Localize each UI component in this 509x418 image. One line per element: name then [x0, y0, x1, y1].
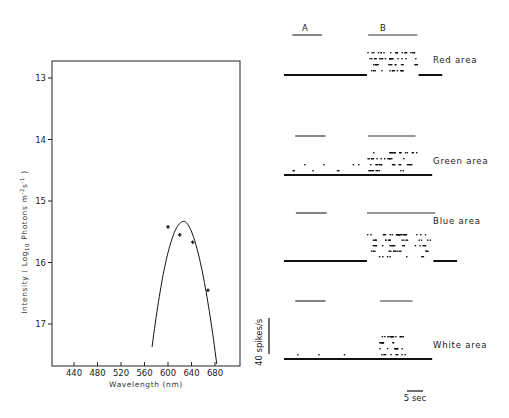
spike-mark [389, 64, 392, 65]
spike-mark [419, 240, 420, 241]
spike-mark [370, 234, 371, 235]
area-label: Green area [433, 156, 488, 166]
spike-mark [374, 58, 377, 59]
spike-mark [397, 52, 398, 53]
spike-mark [420, 234, 421, 235]
y-axis-ticks: 1314151617 [35, 73, 52, 329]
y-axis-label: Intensity ( Log10 Photons m-2s-1 ) [19, 170, 30, 313]
y-tick-label: 17 [35, 319, 46, 329]
spike-mark [392, 234, 393, 235]
fit-curve [152, 221, 217, 364]
spike-mark [312, 170, 313, 171]
spike-mark [381, 70, 382, 71]
spike-mark [405, 240, 406, 241]
raster-panel: A B Red areaGreen areaBlue areaWhite are… [254, 23, 488, 403]
spike-mark [404, 354, 405, 355]
spike-mark [395, 64, 396, 65]
spike-mark [373, 245, 376, 246]
data-point [178, 233, 182, 237]
spike-mark [384, 158, 385, 159]
spike-mark [375, 64, 376, 65]
spike-mark [407, 152, 408, 153]
spike-mark [338, 170, 339, 171]
spike-mark [405, 152, 406, 153]
spike-mark [412, 152, 413, 153]
spike-mark [371, 58, 372, 59]
spike-mark [425, 245, 426, 246]
spike-mark [398, 164, 401, 165]
spike-mark [382, 256, 383, 257]
spike-mark [371, 70, 372, 71]
spike-mark [410, 52, 411, 53]
spike-mark [383, 234, 384, 235]
spike-mark [416, 152, 417, 153]
spike-mark [390, 52, 391, 53]
spike-mark [292, 170, 293, 171]
spike-mark [371, 52, 372, 53]
spike-mark [390, 234, 391, 235]
x-tick-label: 560 [136, 368, 152, 378]
spike-mark [407, 240, 408, 241]
spike-mark [380, 58, 383, 59]
spike-mark [381, 354, 382, 355]
figure: 1314151617 440480520560600640680 Wavelen… [0, 0, 509, 418]
spike-mark [389, 158, 390, 159]
spike-mark [370, 164, 371, 165]
spike-mark [397, 251, 398, 252]
spike-mark [389, 152, 392, 153]
stimulus-label-b: B [380, 23, 386, 33]
spike-mark [401, 70, 404, 71]
spike-mark [385, 58, 386, 59]
spike-mark [430, 240, 431, 241]
spike-mark [371, 170, 374, 171]
spike-mark [406, 256, 407, 257]
spike-mark [403, 336, 404, 337]
spike-mark [382, 336, 383, 337]
spike-mark [358, 164, 359, 165]
spike-mark [318, 354, 319, 355]
spike-mark [368, 170, 371, 171]
spike-mark [390, 354, 391, 355]
spike-mark [383, 52, 384, 53]
y-tick-label: 14 [35, 135, 46, 145]
spike-mark [400, 336, 401, 337]
spike-mark [379, 164, 382, 165]
stimulus-label-a: A [302, 23, 308, 33]
spike-mark [394, 152, 395, 153]
spectral-plot: 1314151617 440480520560600640680 Wavelen… [19, 61, 240, 389]
spike-mark [390, 58, 391, 59]
spike-mark [367, 234, 368, 235]
spike-mark [391, 158, 392, 159]
spike-mark [390, 336, 393, 337]
spike-mark [415, 245, 416, 246]
spike-mark [368, 158, 369, 159]
spike-mark [392, 152, 393, 153]
spike-mark [384, 336, 385, 337]
vertical-scale-label: 40 spikes/s [254, 318, 264, 366]
x-tick-label: 680 [207, 368, 223, 378]
spike-mark [395, 354, 398, 355]
spike-mark [405, 234, 406, 235]
spike-mark [427, 240, 428, 241]
spike-mark [426, 251, 429, 252]
spike-mark [401, 354, 402, 355]
plot-frame [52, 61, 240, 366]
spike-mark [323, 164, 324, 165]
y-tick-label: 15 [35, 196, 46, 206]
spike-mark [395, 336, 396, 337]
spike-mark [379, 170, 380, 171]
spike-mark [344, 354, 345, 355]
spike-mark [409, 164, 412, 165]
spike-mark [382, 245, 383, 246]
spike-mark [389, 251, 392, 252]
raster-row: White area [284, 301, 487, 359]
area-label: Red area [433, 55, 477, 65]
spike-mark [397, 348, 398, 349]
y-tick-label: 16 [35, 258, 46, 268]
spike-mark [382, 342, 383, 343]
data-point [166, 225, 170, 229]
spike-mark [402, 52, 403, 53]
spike-mark [373, 52, 374, 53]
spike-mark [393, 342, 394, 343]
spike-mark [297, 354, 298, 355]
